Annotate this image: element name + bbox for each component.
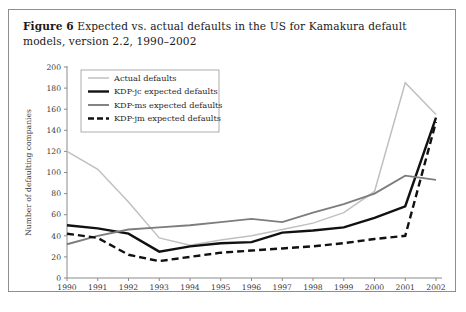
y-axis-tick-label: 40: [51, 232, 61, 241]
y-axis-tick-label: 60: [51, 210, 61, 219]
legend-label: KDP-jc expected defaults: [114, 86, 218, 96]
y-axis-tick-label: 100: [47, 168, 62, 177]
y-axis-tick-label: 180: [47, 84, 62, 93]
x-axis-tick-label: 1997: [273, 283, 292, 292]
line-chart: 020406080100120140160180200 199019911992…: [9, 10, 457, 293]
y-axis-tick-label: 0: [56, 274, 61, 283]
x-axis-tick-label: 1992: [119, 283, 138, 292]
legend-label: KDP-jm expected defaults: [114, 113, 221, 123]
x-axis-tick-label: 2001: [396, 283, 415, 292]
y-axis-tick-label: 200: [47, 63, 62, 72]
series-line: [67, 176, 436, 245]
y-axis-tick-label: 20: [51, 253, 61, 262]
series-line: [67, 122, 436, 261]
chart-legend: Actual defaultsKDP-jc expected defaultsK…: [81, 70, 223, 132]
chart-plot-area: 020406080100120140160180200 199019911992…: [9, 10, 457, 293]
y-axis-tick-label: 160: [47, 105, 62, 114]
x-axis-tick-label: 1995: [211, 283, 230, 292]
y-axis-tick-label: 80: [51, 189, 61, 198]
y-axis: 020406080100120140160180200: [47, 63, 68, 283]
x-axis-tick-label: 1994: [180, 283, 199, 292]
legend-label: KDP-ms expected defaults: [114, 100, 223, 110]
x-axis-tick-label: 1991: [88, 283, 107, 292]
x-axis-tick-label: 1990: [57, 283, 76, 292]
x-axis-tick-label: 1998: [303, 283, 322, 292]
x-axis-tick-label: 1993: [150, 283, 169, 292]
x-axis: 1990199119921993199419951996199719981999…: [57, 278, 445, 292]
y-axis-tick-label: 140: [47, 126, 62, 135]
x-axis-tick-label: 1999: [334, 283, 353, 292]
x-axis-tick-label: 1996: [242, 283, 261, 292]
y-axis-title: Number of defaulting companies: [24, 109, 33, 236]
figure-frame: Figure 6 Expected vs. actual defaults in…: [8, 9, 456, 292]
x-axis-tick-label: 2002: [426, 283, 445, 292]
x-axis-tick-label: 2000: [365, 283, 384, 292]
y-axis-tick-label: 120: [47, 147, 62, 156]
legend-label: Actual defaults: [113, 73, 177, 83]
